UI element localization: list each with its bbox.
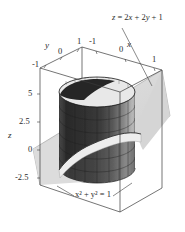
y-tick-label-0: 0 — [58, 47, 62, 56]
three-d-plot-figure: z = 2x + 2y + 1 x² + y² = 1 y x z 1 0 -1… — [0, 0, 185, 232]
cylinder-top — [59, 75, 135, 107]
cylinder-label-leader-right — [113, 183, 132, 196]
box-edge-bottom-right — [120, 188, 162, 212]
cylinder-equation-label: x² + y² = 1 — [75, 190, 111, 199]
cylinder-label-leader — [57, 186, 74, 196]
x-tick-label-neg1: -1 — [89, 37, 96, 46]
x-tick-label-1: 1 — [152, 55, 156, 64]
x-tick-1 — [154, 68, 155, 71]
x-axis-label: x — [127, 40, 131, 49]
z-axis-label: z — [8, 131, 12, 140]
z-tick-label-2-5: 2.5 — [19, 117, 30, 126]
plane-eq-op3: + 1 — [149, 12, 162, 22]
x-tick-label-0: 0 — [119, 45, 123, 54]
plane-label-leader — [122, 28, 152, 86]
z-tick-label-5: 5 — [28, 89, 32, 98]
y-tick-label-1: 1 — [77, 37, 81, 46]
plane-equation-label: z = 2x + 2y + 1 — [112, 13, 163, 22]
plane-eq-op2: + 2 — [132, 12, 145, 22]
y-tick-label-neg1: -1 — [32, 60, 39, 69]
z-tick-label-0: 0 — [28, 145, 32, 154]
plane-eq-op1: = 2 — [115, 12, 128, 22]
y-axis-label: y — [45, 41, 49, 50]
z-tick-label-neg2-5: -2.5 — [15, 173, 28, 182]
